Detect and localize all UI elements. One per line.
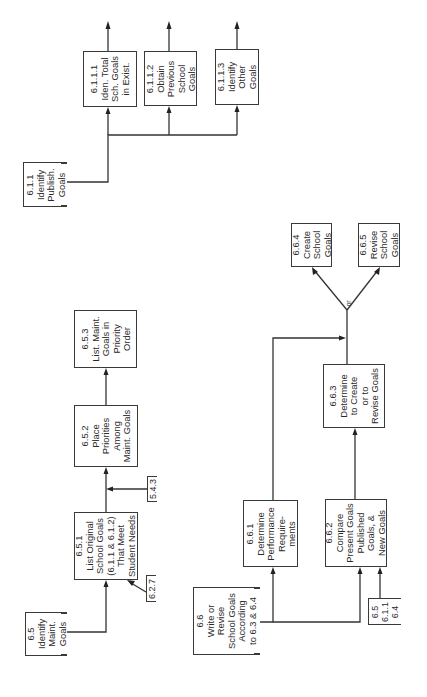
arrowhead: [104, 368, 109, 375]
process-box-6-6-2: 6.6.2 Compare Present Goals Published Go…: [325, 499, 387, 567]
process-box-6-5-1: 6.5.1 List Original School Goals (6.1.1 …: [74, 512, 138, 580]
process-box-6-6-5: 6.6.5 Revise School Goals: [358, 223, 400, 267]
connector: [67, 583, 106, 632]
process-box-6-1-1-3: 6.1.1.3 Identify Other Goals: [215, 49, 259, 105]
or-junction-label: or: [345, 300, 352, 306]
arrowhead: [353, 428, 358, 435]
arrowhead: [104, 580, 109, 587]
connector: [273, 570, 360, 622]
connector: [314, 270, 347, 310]
process-box-6-5: 6.5 Identify Maint. Goals: [25, 612, 67, 656]
process-label: 6.5.3 List. Maint. Goals in Priority Ord…: [79, 316, 132, 361]
diagram-canvas: 6.1.1 Identify Publish. Goals 6.1.1.1 Id…: [0, 0, 427, 697]
process-label: 6.1.1.3 Identify Other Goals: [216, 62, 258, 92]
arrowhead: [104, 467, 109, 474]
process-label: 6.1.1 Identify Publish. Goals: [24, 168, 66, 201]
process-box-6-5-2: 6.5.2 Place Priorities Among Maint. Goal…: [74, 405, 138, 467]
process-label: 6.6.4 Create School Goals: [290, 231, 332, 260]
process-label: 6.6 Write or Revise School Goals Accordi…: [195, 593, 259, 649]
arrowhead: [271, 567, 276, 574]
process-box-6-1-1-2: 6.1.1.2 Obtain Previous School Goals: [144, 51, 197, 106]
reference-label: 6.5 6.1.1 6.4: [370, 601, 400, 621]
reference-6-5-6-1-1-6-4: 6.5 6.1.1 6.4: [368, 598, 401, 625]
arrowhead: [167, 21, 172, 29]
arrowhead: [106, 487, 113, 492]
reference-label: 5.4.3: [147, 479, 158, 499]
process-box-6-1-1-1: 6.1.1.1 Iden. Total Sch. Goals in Exist.: [83, 51, 137, 107]
connector: [131, 583, 146, 592]
connector: [260, 570, 273, 622]
reference-label: 6.2.7: [146, 578, 157, 598]
process-box-6-6: 6.6 Write or Revise School Goals Accordi…: [193, 587, 260, 655]
process-box-6-6-1: 6.6.1 Determine Performance Require- men…: [243, 500, 298, 567]
process-label: 6.5 Identify Maint. Goals: [25, 619, 67, 649]
process-box-6-6-3: 6.6.3 Determine to Create or to Revise G…: [323, 364, 385, 428]
connector: [67, 135, 237, 182]
process-label: 6.6.3 Determine to Create or to Revise G…: [328, 368, 381, 424]
process-label: 6.6.2 Compare Present Goals Published Go…: [324, 503, 388, 562]
process-label: 6.1.1.1 Iden. Total Sch. Goals in Exist.: [89, 56, 131, 102]
reference-6-2-7: 6.2.7: [146, 575, 156, 602]
process-box-6-1-1: 6.1.1 Identify Publish. Goals: [23, 162, 67, 207]
arrowhead: [358, 567, 363, 574]
arrowhead: [235, 21, 240, 29]
process-label: 6.6.1 Determine Performance Require- men…: [244, 507, 297, 561]
process-label: 6.5.2 Place Priorities Among Maint. Goal…: [80, 410, 133, 463]
arrowhead: [106, 21, 111, 29]
connector: [347, 270, 378, 310]
process-box-6-6-4: 6.6.4 Create School Goals: [291, 223, 332, 267]
process-label: 6.1.1.2 Obtain Previous School Goals: [144, 60, 197, 96]
arrowhead: [235, 105, 240, 112]
arrowhead: [167, 106, 172, 113]
reference-5-4-3: 5.4.3: [147, 476, 157, 502]
arrowhead: [378, 567, 383, 574]
process-box-6-5-3: 6.5.3 List. Maint. Goals in Priority Ord…: [74, 310, 137, 368]
arrowhead: [339, 336, 346, 341]
process-label: 6.5.1 List Original School Goals (6.1.1 …: [74, 515, 138, 577]
process-label: 6.6.5 Revise School Goals: [358, 231, 400, 260]
arrowhead: [106, 107, 111, 114]
